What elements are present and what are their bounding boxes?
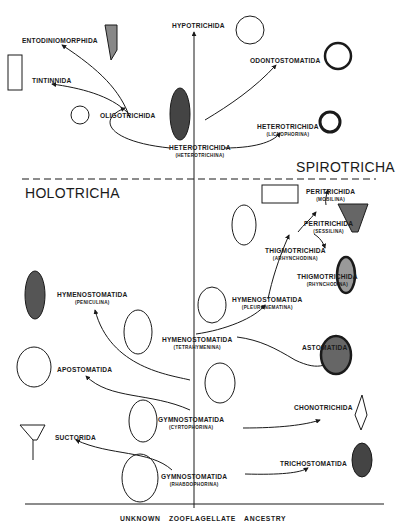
trichostomatida-organism xyxy=(352,443,372,477)
label-hymenostomatida-peniculina: HYMENOSTOMATIDA (PENICULINA) xyxy=(57,292,128,305)
label-oligotrichida: OLIGOTRICHIDA xyxy=(100,113,155,120)
odontostomatida-organism xyxy=(325,43,351,69)
label-peritrichida-mobilina: PERITRICHIDA (MOBILINA) xyxy=(306,189,355,202)
label-gymnostomatida-cyrtophorina: GYMNOSTOMATIDA (CYRTOPHORINA) xyxy=(158,417,224,430)
cyrtophorina-organism xyxy=(129,400,157,442)
label-chonotrichida: CHONOTRICHIDA xyxy=(294,405,353,412)
apostomatida-organism xyxy=(17,347,51,387)
licnophorina-organism xyxy=(320,112,340,132)
label-astomatida: ASTOMATIDA xyxy=(302,345,347,352)
label-peritrichida-sessilina: PERITRICHIDA (SESSILINA) xyxy=(304,221,353,234)
thigmo-arhyn-organism xyxy=(232,205,256,245)
label-hypotrichida: HYPOTRICHIDA xyxy=(172,23,225,30)
label-gymnostomatida-rhabdophorina: GYMNOSTOMATIDA (RHABDOPHORINA) xyxy=(161,474,227,487)
oligotrichida-organism xyxy=(71,106,89,124)
tetrahymenina-organism-2 xyxy=(205,363,235,403)
peniculina-organism xyxy=(25,271,45,319)
label-heterotrichida-heterotrichina: HETEROTRICHIDA (HETEROTRICHINA) xyxy=(169,145,231,158)
label-apostomatida: APOSTOMATIDA xyxy=(57,367,112,374)
label-heterotrichida-licnophorina: HETEROTRICHIDA (LICNOPHORINA) xyxy=(257,124,319,137)
group-label-spirotricha: SPIROTRICHA xyxy=(296,159,395,175)
hypotrichida-organism xyxy=(236,16,264,44)
heterotrichina-organism xyxy=(170,88,190,140)
astomatida-organism xyxy=(321,336,351,374)
root-label: UNKNOWN ZOOFLAGELLATE ANCESTRY xyxy=(120,515,286,522)
label-suctorida: SUCTORIDA xyxy=(55,435,96,442)
suctorida-organism xyxy=(20,425,45,440)
entodiniomorphida-organism xyxy=(105,25,117,60)
rhabdophorina-organism xyxy=(122,454,158,502)
label-tintinnida: TINTINNIDA xyxy=(32,78,71,85)
label-odontostomatida: ODONTOSTOMATIDA xyxy=(250,58,320,65)
label-thigmotrichida-rhynchodina: THIGMOTRICHIDA (RHYNCHODINA) xyxy=(297,274,358,287)
label-entodiniomorphida: ENTODINIOMORPHIDA xyxy=(22,38,98,45)
label-trichostomatida: TRICHOSTOMATIDA xyxy=(280,461,347,468)
group-label-holotricha: HOLOTRICHA xyxy=(25,185,120,201)
tetrahymenina-organism xyxy=(124,310,152,354)
chonotrichida-organism xyxy=(355,395,367,430)
label-hymenostomatida-tetrahymenina: HYMENOSTOMATIDA (TETRAHYMENINA) xyxy=(162,337,233,350)
pleuronematina-organism xyxy=(198,287,226,323)
label-thigmotrichida-arhynchodina: THIGMOTRICHIDA (ARHYNCHODINA) xyxy=(265,248,326,261)
mobilina-organism xyxy=(262,185,298,203)
label-hymenostomatida-pleuronematina: HYMENOSTOMATIDA (PLEURONEMATINA) xyxy=(232,297,303,310)
tintinnida-organism xyxy=(8,55,22,90)
